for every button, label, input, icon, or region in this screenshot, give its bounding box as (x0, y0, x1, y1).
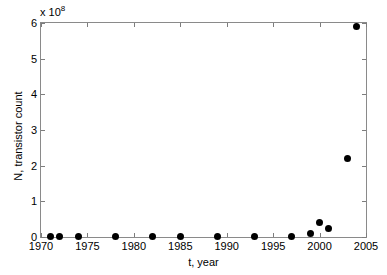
y-axis-label: N, transistor count (12, 66, 24, 206)
y-axis-tick (41, 237, 45, 238)
data-point (56, 233, 63, 240)
data-point (316, 219, 323, 226)
x-axis-tick (227, 23, 228, 27)
data-point (251, 233, 258, 240)
x-axis-tick (134, 23, 135, 27)
data-point (353, 23, 360, 30)
x-axis-tick (320, 233, 321, 237)
x-axis-tick-label: 1995 (261, 241, 285, 252)
y-axis-tick (362, 237, 366, 238)
y-axis-tick-label: 5 (31, 53, 37, 64)
y-axis-tick (362, 130, 366, 131)
plot-box: 012345619701975198019851990199520002005 (40, 22, 367, 238)
x-axis-tick-label: 1990 (214, 241, 238, 252)
x-axis-tick-label: 2005 (354, 241, 378, 252)
data-point (149, 233, 156, 240)
x-axis-tick (320, 23, 321, 27)
y-axis-tick-label: 6 (31, 18, 37, 29)
y-axis-tick (362, 94, 366, 95)
x-axis-tick (41, 23, 42, 27)
y-axis-tick (362, 59, 366, 60)
x-axis-tick (366, 233, 367, 237)
y-axis-tick-label: 2 (31, 160, 37, 171)
y-axis-tick-label: 3 (31, 125, 37, 136)
x-axis-tick (41, 233, 42, 237)
data-point (112, 233, 119, 240)
data-point (344, 155, 351, 162)
y-axis-tick (362, 201, 366, 202)
data-point (288, 233, 295, 240)
plot-area: 012345619701975198019851990199520002005 (41, 23, 366, 237)
y-axis-tick (41, 94, 45, 95)
y-axis-tick (41, 130, 45, 131)
x-axis-tick (366, 23, 367, 27)
x-axis-tick-label: 1985 (168, 241, 192, 252)
y-axis-tick-label: 4 (31, 89, 37, 100)
x-axis-tick (180, 23, 181, 27)
x-axis-tick-label: 1980 (122, 241, 146, 252)
y-axis-exponent-label: x 108 (40, 6, 65, 18)
figure-canvas: x 108 0123456197019751980198519901995200… (0, 0, 387, 275)
y-axis-tick-label: 1 (31, 196, 37, 207)
x-axis-tick-label: 2000 (307, 241, 331, 252)
y-axis-exponent-power: 8 (61, 4, 65, 13)
y-axis-tick (41, 201, 45, 202)
x-axis-tick (273, 233, 274, 237)
y-axis-tick (41, 59, 45, 60)
data-point (307, 230, 314, 237)
y-axis-tick (41, 166, 45, 167)
x-axis-tick (134, 233, 135, 237)
x-axis-label: t, year (40, 256, 367, 268)
y-axis-tick (362, 166, 366, 167)
x-axis-tick-label: 1975 (75, 241, 99, 252)
x-axis-tick-label: 1970 (29, 241, 53, 252)
x-axis-tick (87, 23, 88, 27)
x-axis-tick (87, 233, 88, 237)
data-point (325, 225, 332, 232)
x-axis-tick (273, 23, 274, 27)
y-axis-exponent-base: x 10 (40, 6, 61, 18)
x-axis-tick (227, 233, 228, 237)
